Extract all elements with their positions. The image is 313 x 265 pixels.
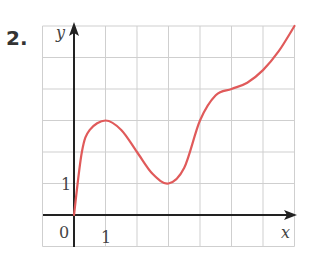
origin-label: 0 (59, 223, 69, 242)
x-axis-label: x (281, 223, 290, 242)
grid (43, 26, 295, 247)
y-axis-label: y (55, 23, 66, 42)
y-tick-label-1: 1 (61, 175, 71, 194)
x-tick-label-1: 1 (101, 228, 111, 247)
function-graph: y x 0 1 1 (0, 0, 313, 265)
